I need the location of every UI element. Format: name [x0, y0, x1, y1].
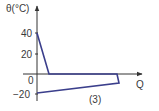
temperature-heat-diagram: θ(°C) 40 20 0 −20 Q (3) [0, 0, 159, 111]
curve [37, 33, 119, 93]
tick-label-0: 0 [28, 75, 34, 86]
tick-label-minus20: −20 [13, 89, 30, 100]
x-axis-label: Q [136, 79, 144, 90]
figure-caption: (3) [89, 94, 101, 105]
tick-label-40: 40 [21, 28, 33, 39]
y-axis-label: θ(°C) [6, 3, 29, 14]
tick-label-20: 20 [21, 49, 33, 60]
